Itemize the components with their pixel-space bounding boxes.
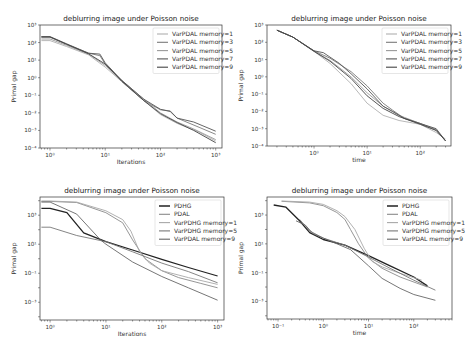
y-tick-label: 10⁻³ (251, 298, 263, 304)
x-tick-label: 10² (409, 323, 418, 329)
legend-label: VarPDHG memory=1 (174, 219, 237, 227)
y-tick-label: 10⁻³ (24, 127, 36, 133)
chart-panel-bottom-left: deblurring image under Poisson noise10⁰1… (10, 186, 237, 337)
y-tick-label: 10⁻⁴ (24, 145, 37, 151)
legend-label: VarPDHG memory=5 (174, 227, 237, 235)
chart-panel-top-right: deblurring image under Poisson noise10⁰1… (237, 14, 462, 163)
legend-label: PDAL (174, 210, 190, 217)
x-tick-label: 10² (157, 324, 166, 330)
x-tick-label: 10³ (211, 152, 220, 158)
x-tick-label: 10³ (213, 324, 222, 330)
legend-label: VarPDAL memory=7 (172, 55, 233, 63)
legend-label: VarPDAL memory=5 (401, 47, 462, 55)
legend-label: PDHG (402, 202, 420, 209)
y-tick-label: 10⁻³ (251, 126, 263, 132)
legend-label: VarPDAL memory=3 (401, 38, 462, 46)
legend-label: PDHG (174, 202, 192, 209)
legend-label: VarPDAL memory=7 (401, 55, 462, 63)
legend-label: VarPDAL memory=9 (402, 235, 463, 243)
y-tick-label: 10⁰ (27, 75, 37, 81)
y-tick-label: 10⁻⁴ (251, 143, 264, 149)
chart-panel-top-left: deblurring image under Poisson noise10⁰1… (10, 14, 233, 165)
x-tick-label: 10⁰ (45, 152, 55, 158)
x-axis-label: time (352, 156, 366, 163)
x-tick-label: 10⁰ (309, 150, 319, 156)
y-tick-label: 10¹ (27, 241, 36, 247)
figure-canvas: deblurring image under Poisson noise10⁰1… (0, 0, 466, 352)
legend-label: VarPDAL memory=1 (172, 30, 233, 38)
y-tick-label: 10⁰ (254, 74, 264, 80)
y-axis-label: Primal gap (237, 69, 245, 101)
y-tick-label: 10³ (27, 212, 36, 218)
legend-label: VarPDHG memory=5 (402, 227, 465, 235)
y-tick-label: 10³ (254, 212, 263, 218)
chart-title: deblurring image under Poisson noise (291, 14, 427, 23)
y-tick-label: 10² (254, 39, 263, 45)
legend-label: VarPDAL memory=3 (172, 38, 233, 46)
y-tick-label: 10⁻¹ (24, 270, 36, 276)
legend: VarPDAL memory=1VarPDAL memory=3VarPDAL … (153, 28, 233, 74)
chart-title: deblurring image under Poisson noise (292, 186, 428, 195)
legend-label: VarPDAL memory=5 (172, 47, 233, 55)
x-tick-label: 10⁰ (45, 324, 55, 330)
legend-label: VarPDAL memory=1 (401, 30, 462, 38)
y-tick-label: 10⁻¹ (24, 92, 36, 98)
y-tick-label: 10² (27, 40, 36, 46)
x-tick-label: 10¹ (362, 150, 371, 156)
legend: PDHGPDALVarPDHG memory=1VarPDHG memory=5… (155, 200, 237, 246)
legend: VarPDAL memory=1VarPDAL memory=3VarPDAL … (382, 28, 462, 74)
x-tick-label: 10¹ (364, 323, 373, 329)
legend-label: VarPDHG memory=1 (402, 219, 465, 227)
x-tick-label: 10¹ (101, 324, 110, 330)
y-axis-label: Primal gap (10, 242, 18, 274)
legend-label: VarPDAL memory=9 (174, 235, 235, 243)
x-axis-label: Iterations (118, 330, 147, 337)
y-tick-label: 10⁻³ (24, 299, 36, 305)
y-tick-label: 10¹ (27, 57, 36, 63)
legend-label: PDAL (402, 210, 418, 217)
legend-label: VarPDAL memory=9 (172, 63, 233, 71)
chart-title: deblurring image under Poisson noise (64, 186, 200, 195)
y-tick-label: 10³ (27, 22, 36, 28)
y-tick-label: 10⁻¹ (251, 270, 263, 276)
y-axis-label: Primal gap (10, 70, 18, 102)
x-tick-label: 10² (416, 150, 425, 156)
legend: PDHGPDALVarPDHG memory=1VarPDHG memory=5… (383, 200, 465, 246)
x-axis-label: Iterations (117, 158, 146, 165)
x-tick-label: 10⁰ (319, 323, 329, 329)
chart-panel-bottom-right: deblurring image under Poisson noise10⁻¹… (237, 186, 465, 336)
y-tick-label: 10³ (254, 22, 263, 28)
y-tick-label: 10¹ (254, 57, 263, 63)
y-axis-label: Primal gap (237, 242, 245, 274)
chart-title: deblurring image under Poisson noise (63, 14, 199, 23)
x-tick-label: 10¹ (101, 152, 110, 158)
x-tick-label: 10⁻¹ (272, 323, 284, 329)
x-tick-label: 10² (156, 152, 165, 158)
x-axis-label: time (353, 329, 367, 336)
y-tick-label: 10⁻² (24, 110, 36, 116)
legend-label: VarPDAL memory=9 (401, 63, 462, 71)
y-tick-label: 10⁻² (251, 108, 263, 114)
y-tick-label: 10¹ (254, 241, 263, 247)
y-tick-label: 10⁻¹ (251, 91, 263, 97)
